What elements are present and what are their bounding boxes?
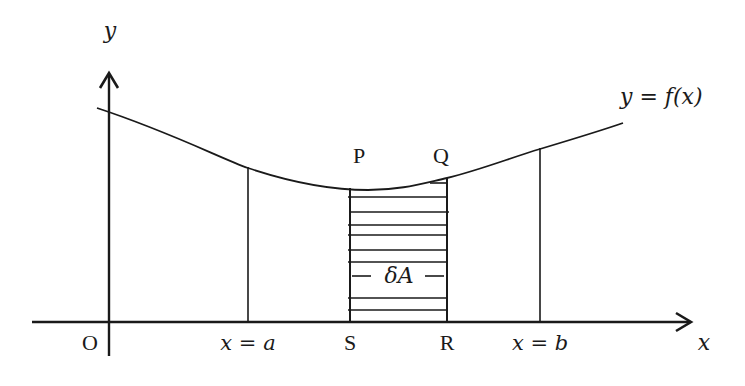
point-p-label: P [353, 143, 365, 168]
curve: y = f(x) [97, 84, 703, 190]
curve-label: y = f(x) [619, 84, 703, 109]
boundary-b: x = b [512, 148, 568, 355]
strip-area-label: δA [384, 263, 413, 288]
x-axis: x O [32, 313, 711, 355]
boundary-a-label: x = a [220, 331, 275, 355]
boundary-b-label: x = b [512, 331, 568, 355]
point-s-label: S [344, 330, 356, 355]
origin-label: O [82, 330, 98, 355]
point-r-label: R [440, 330, 455, 355]
boundary-a: x = a [220, 167, 275, 355]
point-q-label: Q [433, 143, 449, 168]
strip: δA P Q S R [344, 143, 455, 355]
strip-hatching [348, 183, 449, 310]
area-under-curve-diagram: y x O y = f(x) x = a x = b [0, 0, 745, 386]
y-axis-label: y [103, 18, 117, 43]
x-axis-label: x [698, 330, 711, 355]
y-axis: y [100, 18, 118, 356]
